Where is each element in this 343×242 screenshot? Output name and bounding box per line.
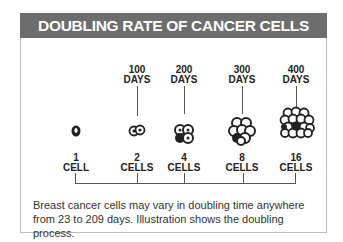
cell-cluster-2-icon	[128, 125, 146, 137]
cell-count-16: 16CELLS	[276, 153, 316, 173]
bracket-tick	[75, 173, 76, 184]
days-label-100: 100DAYS	[117, 65, 157, 85]
cell-count-2: 2CELLS	[117, 153, 157, 173]
bracket-tick	[184, 173, 185, 184]
bracket-tick	[243, 173, 244, 184]
diagram-title: DOUBLING RATE OF CANCER CELLS	[20, 13, 327, 38]
caption-text: Breast cancer cells may vary in doubling…	[33, 198, 323, 240]
cell-cluster-4-icon	[173, 123, 195, 145]
days-pointer-line	[296, 86, 297, 110]
cell-count-1: 1CELL	[56, 153, 96, 173]
days-label-400: 400DAYS	[276, 65, 316, 85]
days-pointer-line	[184, 86, 185, 114]
days-pointer-line	[137, 86, 138, 116]
timeline-bracket	[75, 183, 296, 184]
cell-cluster-16-icon	[280, 108, 314, 138]
cell-count-8: 8CELLS	[222, 153, 262, 173]
days-label-200: 200DAYS	[164, 65, 204, 85]
bracket-tick	[295, 173, 296, 184]
days-pointer-line	[242, 86, 243, 114]
cell-count-4: 4CELLS	[164, 153, 204, 173]
cell-cluster-8-icon	[229, 117, 255, 145]
cell-cluster-1-icon	[70, 124, 82, 138]
bracket-tick	[137, 173, 138, 184]
days-label-300: 300DAYS	[222, 65, 262, 85]
